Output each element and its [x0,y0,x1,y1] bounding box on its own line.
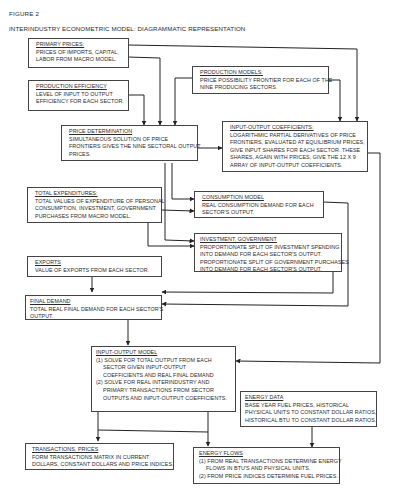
box-exports: EXPORTS VALUE OF EXPORTS FROM EACH SECTO… [27,256,162,277]
energy-data-line: BASE YEAR FUEL PRICES, HISTORICAL [245,402,371,410]
io-coefficients-line: ARRAY OF INPUT-OUTPUT COEFFICIENTS. [230,162,362,170]
final-demand-line: TOTAL REAL FINAL DEMAND FOR EACH SECTOR'… [30,306,156,314]
transactions-prices-header: TRANSACTIONS, PRICES [32,446,168,454]
primary-prices-header: PRIMARY PRICES: [36,41,123,49]
io-model-line: OUTPUTS AND INPUT-OUTPUT COEFFICIENTS. [96,395,230,403]
investment-government-line: PROPORTIONATE SPLIT OF GOVERNMENT PURCHA… [200,259,336,267]
total-expenditures-line: CONSUMPTION, INVESTMENT, GOVERNMENT [35,205,156,213]
primary-prices-line: LABOR FROM MACRO MODEL. [36,56,123,64]
exports-header: EXPORTS [35,259,156,267]
consumption-model-header: CONSUMPTION MODEL [202,194,318,202]
total-expenditures-header: TOTAL EXPENDITURES: [35,190,156,198]
box-consumption-model: CONSUMPTION MODEL REAL CONSUMPTION DEMAN… [194,191,324,218]
io-coefficients-line: FRONTIERS, EVALUATED AT EQUILIBRIUM PRIC… [230,139,362,147]
box-total-expenditures: TOTAL EXPENDITURES: TOTAL VALUES OF EXPE… [27,187,162,223]
io-model-line: SECTOR GIVEN INPUT-OUTPUT [96,364,230,372]
transactions-prices-line: FORM TRANSACTIONS MATRIX IN CURRENT [32,454,168,462]
energy-flows-line: (1) FROM REAL TRANSACTIONS DETERMINE ENE… [199,458,334,466]
investment-government-line: INTO DEMAND FOR EACH SECTOR'S OUTPUT. [200,266,336,274]
io-model-line: (1) SOLVE FOR TOTAL OUTPUT FROM EACH [96,357,230,365]
box-energy-data: ENERGY DATA BASE YEAR FUEL PRICES, HISTO… [240,391,377,427]
io-model-line: COEFFICIENTS AND REAL FINAL DEMAND [96,372,230,380]
io-coefficients-line: SHARES, AGAIN WITH PRICES, GIVE THE 12 x… [230,154,362,162]
io-model-line: PRIMARY TRANSACTIONS FROM SECTOR [96,387,230,395]
total-expenditures-line: TOTAL VALUES OF EXPENDITURE OF PERSONAL [35,198,156,206]
production-efficiency-line: EFFICIENCY FOR EACH SECTOR. [36,98,123,106]
final-demand-header: FINAL DEMAND [30,298,156,306]
exports-line: VALUE OF EXPORTS FROM EACH SECTOR. [35,267,156,275]
energy-data-header: ENERGY DATA [245,394,371,402]
consumption-model-line: SECTOR'S OUTPUT. [202,209,318,217]
io-model-line: (2) SOLVE FOR REAL INTERINDUSTRY AND [96,379,230,387]
box-price-determination: PRICE DETERMINATION SIMULTANEOUS SOLUTIO… [61,125,198,161]
investment-government-line: PROPORTIONATE SPLIT OF INVESTMENT SPENDI… [200,244,336,252]
box-primary-prices: PRIMARY PRICES: PRICES OF IMPORTS, CAPIT… [28,38,129,68]
box-production-models: PRODUCTION MODELS: PRICE POSSIBILITY FRO… [192,66,329,94]
final-demand-line: OUTPUT. [30,313,156,321]
box-input-output-model: INPUT-OUTPUT MODEL (1) SOLVE FOR TOTAL O… [91,346,236,412]
energy-data-line: PHYSICAL UNITS TO CONSTANT DOLLAR RATIOS… [245,409,371,417]
production-models-line: NINE PRODUCING SECTORS. [200,84,323,92]
box-energy-flows: ENERGY FLOWS (1) FROM REAL TRANSACTIONS … [193,447,340,484]
io-coefficients-line: LOGARITHMIC PARTIAL DERIVATIVES OF PRICE [230,132,362,140]
io-coefficients-header: INPUT-OUTPUT COEFFICIENTS: [230,124,362,132]
io-coefficients-line: GIVE INPUT SHARES FOR EACH SECTOR. THESE [230,147,362,155]
primary-prices-line: PRICES OF IMPORTS, CAPITAL, [36,49,123,57]
investment-government-header: INVESTMENT, GOVERNMENT [200,236,336,244]
production-efficiency-header: PRODUCTION EFFICIENCY [36,83,123,91]
consumption-model-line: REAL CONSUMPTION DEMAND FOR EACH [202,202,318,210]
price-determination-line: SIMULTANEOUS SOLUTION OF PRICE [69,136,192,144]
box-investment-government: INVESTMENT, GOVERNMENT PROPORTIONATE SPL… [194,233,342,272]
energy-flows-line: (2) FROM PRICE INDICES DETERMINE FUEL PR… [199,473,334,481]
energy-flows-line: FLOWS IN BTU'S AND PHYSICAL UNITS. [199,465,334,473]
box-transactions-prices: TRANSACTIONS, PRICES FORM TRANSACTIONS M… [25,443,174,470]
production-models-header: PRODUCTION MODELS: [200,69,323,77]
total-expenditures-line: PURCHASES FROM MACRO MODEL. [35,213,156,221]
box-final-demand: FINAL DEMAND TOTAL REAL FINAL DEMAND FOR… [25,295,162,320]
production-efficiency-line: LEVEL OF INPUT TO OUTPUT [36,91,123,99]
io-model-header: INPUT-OUTPUT MODEL [96,349,230,357]
price-determination-line: PRICES. [69,151,192,159]
energy-flows-header: ENERGY FLOWS [199,450,334,458]
box-input-output-coefficients: INPUT-OUTPUT COEFFICIENTS: LOGARITHMIC P… [222,121,368,172]
price-determination-header: PRICE DETERMINATION [69,128,192,136]
production-models-line: PRICE POSSIBILITY FRONTIER FOR EACH OF T… [200,77,323,85]
box-production-efficiency: PRODUCTION EFFICIENCY LEVEL OF INPUT TO … [28,80,129,111]
energy-data-line: HISTORICAL BTU TO CONSTANT DOLLAR RATIOS… [245,417,371,425]
investment-government-line: INTO DEMAND FOR EACH SECTOR'S OUTPUT. [200,251,336,259]
price-determination-line: FRONTIERS GIVES THE NINE SECTORAL OUTPUT [69,143,192,151]
transactions-prices-line: DOLLARS, CONSTANT DOLLARS AND PRICE INDI… [32,461,168,469]
